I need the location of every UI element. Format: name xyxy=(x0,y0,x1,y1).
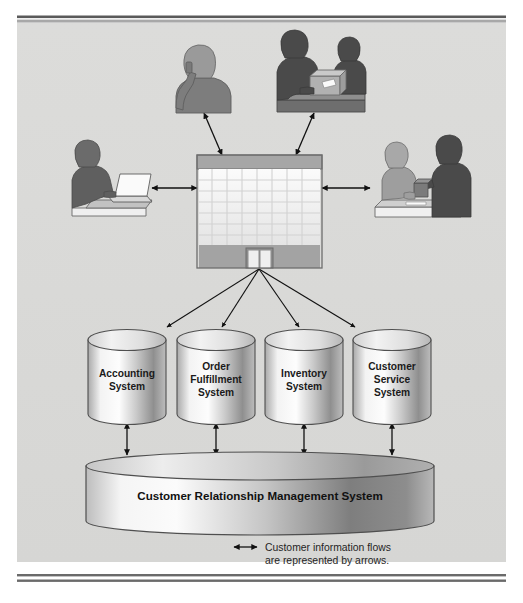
inventory-system-line1: Inventory xyxy=(281,368,327,379)
customer-service-system-line1: Customer xyxy=(368,361,416,372)
accounting-system[interactable]: Accounting System xyxy=(88,330,166,425)
figure-root: Accounting System Order Fulfillment Syst… xyxy=(0,0,523,603)
legend-line2: are represented by arrows. xyxy=(265,555,389,566)
order-fulfillment-system[interactable]: Order Fulfillment System xyxy=(177,330,255,425)
bottom-border xyxy=(17,574,506,582)
order-fulfillment-system-line1: Order xyxy=(202,361,230,372)
crm-database[interactable]: Customer Relationship Management System xyxy=(86,452,434,535)
customer-service-system-line3: System xyxy=(374,387,410,398)
accounting-system-line1: Accounting xyxy=(99,368,155,379)
order-fulfillment-system-line3: System xyxy=(198,387,234,398)
diagram-stage: Accounting System Order Fulfillment Syst… xyxy=(0,0,523,603)
inventory-system-line2: System xyxy=(286,381,322,392)
crm-database-label: Customer Relationship Management System xyxy=(137,489,382,502)
inventory-system[interactable]: Inventory System xyxy=(265,330,343,425)
accounting-system-line2: System xyxy=(109,381,145,392)
customer-service-system[interactable]: Customer Service System xyxy=(353,330,431,425)
company-building xyxy=(197,155,322,268)
customer-service-system-line2: Service xyxy=(374,374,411,385)
legend-line1: Customer information flows xyxy=(265,542,391,553)
order-fulfillment-system-line2: Fulfillment xyxy=(190,374,242,385)
top-border xyxy=(17,16,506,23)
